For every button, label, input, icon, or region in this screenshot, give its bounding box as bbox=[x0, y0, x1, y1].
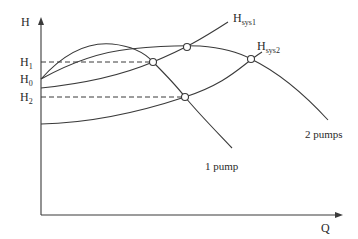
x-axis-label: Q bbox=[321, 221, 330, 235]
one-pump-label: 1 pump bbox=[205, 160, 239, 172]
h1-label: H1 bbox=[20, 55, 33, 71]
operating-point-two-pumps-sys2 bbox=[248, 56, 255, 63]
pump-system-diagram: H Q H1 H0 H2 Hsys1 Hsys2 2 pumps 1 pump bbox=[0, 0, 358, 239]
y-axis-label: H bbox=[21, 15, 30, 29]
h0-label: H0 bbox=[20, 72, 33, 88]
system-curve-2-label: Hsys2 bbox=[257, 39, 280, 55]
one-pump-curve bbox=[41, 44, 232, 148]
operating-point-one-pump-sys1 bbox=[150, 59, 157, 66]
two-pumps-label: 2 pumps bbox=[305, 128, 343, 140]
axes: H Q bbox=[21, 15, 343, 235]
h2-label: H2 bbox=[20, 90, 33, 106]
level-labels: H1 H0 H2 bbox=[20, 55, 33, 106]
two-pumps-curve bbox=[41, 46, 328, 120]
operating-point-one-pump-sys2 bbox=[182, 94, 189, 101]
y-axis-arrow-icon bbox=[38, 17, 44, 25]
x-axis-arrow-icon bbox=[335, 212, 343, 218]
operating-point-two-pumps-sys1 bbox=[184, 44, 191, 51]
system-curve-1-label: Hsys1 bbox=[233, 11, 256, 27]
